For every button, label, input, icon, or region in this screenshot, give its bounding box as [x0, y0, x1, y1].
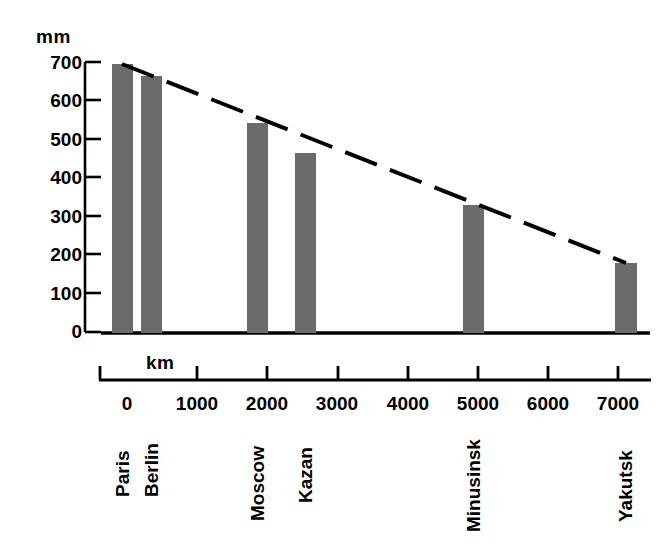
bar-berlin	[141, 76, 162, 333]
chart-canvas	[0, 0, 657, 544]
bar-minusinsk	[463, 205, 484, 333]
bar-yakutsk	[615, 263, 637, 333]
x-axis-ticks	[100, 366, 618, 380]
y-axis-ticks	[85, 62, 101, 332]
bar-moscow	[247, 123, 268, 333]
chart-figure: mm km 700 600 500 400 300 200 100 0 0 10…	[0, 0, 657, 544]
trend-line-dashed	[122, 64, 626, 263]
bar-paris	[112, 64, 133, 333]
bar-kazan	[295, 153, 316, 333]
